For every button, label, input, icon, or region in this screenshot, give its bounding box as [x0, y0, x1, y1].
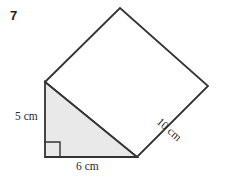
dimension-label-bottom-leg: 6 cm — [76, 161, 99, 173]
dimension-label-left-leg: 5 cm — [15, 111, 38, 123]
geometry-figure: 7 5 cm 6 cm 10 cm — [0, 0, 232, 177]
figure-canvas — [0, 0, 232, 177]
